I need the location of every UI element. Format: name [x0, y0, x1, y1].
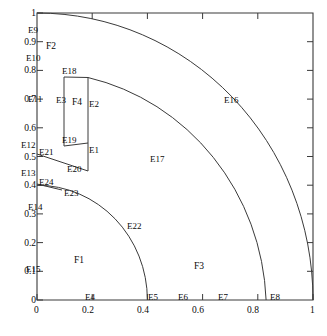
edge-label-E7: E7: [218, 293, 228, 302]
edge-label-E23: E23: [64, 189, 79, 198]
ytick-label-8: 0.8: [24, 66, 36, 76]
edge-label-E18: E18: [62, 67, 77, 76]
edge-label-E13: E13: [21, 169, 36, 178]
edge-label-E4: E4: [85, 293, 95, 302]
xtick-label-2: 0.4: [137, 306, 149, 316]
edge-label-E24: E24: [39, 178, 54, 187]
xtick-label-0: 0: [34, 306, 39, 316]
ytick-label-2: 0.2: [24, 239, 36, 249]
plot-figure: 1 0.9 0.8 0.7 0.6 0.5 0.4 0.3 0.2 0.1 0 …: [0, 0, 327, 336]
xtick-label-1: 0.2: [82, 306, 94, 316]
edge-label-E17: E17: [150, 155, 165, 164]
face-label-F3: F3: [194, 262, 204, 272]
face-label-F4: F4: [72, 98, 82, 108]
edge-label-E15: E15: [26, 265, 41, 274]
edge-label-E19: E19: [62, 136, 77, 145]
ytick-label-10: 1: [31, 9, 36, 19]
edge-label-E1: E1: [89, 146, 99, 155]
edge-label-E2: E2: [89, 100, 99, 109]
xtick-label-3: 0.6: [192, 306, 204, 316]
edge-label-E5: E5: [148, 293, 158, 302]
edge-label-E16: E16: [224, 96, 239, 105]
edge-label-E9: E9: [28, 26, 38, 35]
edge-label-E20: E20: [67, 165, 82, 174]
arc-E22: [37, 185, 147, 300]
face-label-F1: F1: [74, 256, 84, 266]
edge-label-E10: E10: [26, 54, 41, 63]
edge-label-E12: E12: [21, 141, 36, 150]
edge-label-E11: E11: [28, 95, 42, 104]
edge-label-E22: E22: [127, 222, 142, 231]
edge-label-E8: E8: [270, 293, 280, 302]
xtick-label-5: 1: [310, 306, 315, 316]
ytick-label-6: 0.6: [24, 124, 36, 134]
y-axis-ticks-right: [307, 42, 313, 272]
edge-label-E3: E3: [56, 96, 66, 105]
ytick-label-4: 0.4: [24, 181, 36, 191]
edge-label-E14: E14: [28, 203, 43, 212]
x-axis-ticks-top: [92, 13, 258, 19]
edge-label-E21: E21: [39, 148, 54, 157]
xtick-label-4: 0.8: [247, 306, 259, 316]
ytick-label-9: 0.9: [24, 38, 36, 48]
face-label-F2: F2: [46, 42, 56, 52]
edge-label-E6: E6: [178, 293, 188, 302]
ytick-label-5: 0.5: [24, 153, 36, 163]
